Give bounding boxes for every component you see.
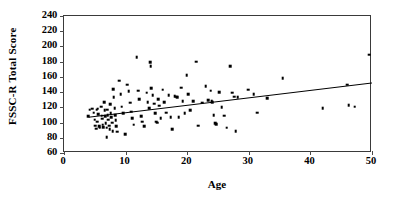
y-axis-tick-label: 180 <box>23 55 57 66</box>
data-point <box>101 117 104 120</box>
data-point <box>103 101 106 104</box>
data-point <box>252 93 255 96</box>
data-point <box>95 127 98 130</box>
y-axis-tick <box>60 16 64 17</box>
data-point <box>143 125 146 128</box>
y-axis-tick-label: 80 <box>23 132 57 143</box>
data-point <box>204 85 207 88</box>
y-axis-tick-label: 140 <box>23 86 57 97</box>
data-point <box>129 101 132 104</box>
data-point <box>201 101 204 104</box>
y-axis-tick-label: 220 <box>23 25 57 36</box>
data-points-layer <box>64 16 370 151</box>
data-point <box>321 107 324 110</box>
data-point <box>106 108 109 111</box>
data-point <box>281 77 284 80</box>
data-point <box>368 54 371 57</box>
x-axis-tick-label: 0 <box>48 156 78 167</box>
data-point <box>145 92 148 95</box>
data-point <box>211 101 214 104</box>
data-point <box>105 136 108 139</box>
data-point <box>207 99 210 102</box>
y-axis-tick <box>60 31 64 32</box>
data-point <box>131 117 134 120</box>
data-point <box>176 96 179 99</box>
data-point <box>346 83 349 86</box>
data-point <box>266 97 269 100</box>
data-point <box>153 102 156 105</box>
data-point <box>126 83 129 86</box>
data-point <box>215 123 218 126</box>
data-point <box>138 98 141 101</box>
data-point <box>235 130 238 133</box>
y-axis-tick <box>60 107 64 108</box>
data-point <box>197 124 200 127</box>
data-point <box>110 112 113 115</box>
x-axis-tick-label: 10 <box>110 156 140 167</box>
data-point <box>247 89 250 92</box>
data-point <box>187 93 190 96</box>
y-axis-tick-label: 240 <box>23 10 57 21</box>
data-point <box>91 108 94 111</box>
data-point <box>151 94 154 97</box>
data-point <box>231 92 234 95</box>
data-point <box>111 130 114 133</box>
y-axis-tick <box>60 92 64 93</box>
data-point <box>98 127 101 130</box>
y-axis-tick <box>60 138 64 139</box>
data-point <box>223 114 226 117</box>
x-axis-tick-label: 20 <box>171 156 201 167</box>
data-point <box>146 101 149 104</box>
y-axis-tick <box>60 46 64 47</box>
data-point <box>229 65 232 68</box>
data-point <box>130 111 133 114</box>
data-point <box>158 105 161 108</box>
data-point <box>236 96 239 99</box>
data-point <box>220 106 223 109</box>
data-point <box>119 93 122 96</box>
data-point <box>111 121 114 124</box>
data-point <box>154 112 157 115</box>
data-point <box>114 114 117 117</box>
y-axis-tick <box>60 62 64 63</box>
data-point <box>165 111 168 114</box>
x-axis-tick-label: 30 <box>233 156 263 167</box>
data-point <box>192 100 195 103</box>
x-axis-title: Age <box>63 178 371 190</box>
data-point <box>183 112 186 115</box>
data-point <box>115 125 118 128</box>
data-point <box>140 115 143 118</box>
data-point <box>180 86 183 89</box>
data-point <box>225 127 228 130</box>
data-point <box>107 118 110 121</box>
data-point <box>112 88 115 91</box>
data-point <box>135 56 138 59</box>
data-point <box>150 87 153 90</box>
data-point <box>113 107 116 110</box>
data-point <box>182 100 185 103</box>
data-point <box>124 133 127 136</box>
data-point <box>156 121 159 124</box>
y-axis-tick <box>60 123 64 124</box>
y-axis-tick-label: 160 <box>23 71 57 82</box>
data-point <box>218 91 221 94</box>
data-point <box>116 130 119 133</box>
data-point <box>137 89 140 92</box>
scatter-chart: FSSC-R Total Score Age 60801001201401601… <box>0 0 394 204</box>
data-point <box>209 89 212 92</box>
y-axis-tick-label: 100 <box>23 116 57 127</box>
data-point <box>122 112 125 115</box>
data-point <box>163 101 166 104</box>
y-axis-tick-label: 120 <box>23 101 57 112</box>
x-axis-tick-label: 50 <box>356 156 386 167</box>
data-point <box>110 116 113 119</box>
data-point <box>96 120 99 123</box>
data-point <box>100 105 103 108</box>
plot-area <box>63 15 371 152</box>
x-axis-tick-label: 40 <box>294 156 324 167</box>
y-axis-tick <box>60 77 64 78</box>
data-point <box>256 111 259 114</box>
data-point <box>114 119 117 122</box>
data-point <box>159 117 162 120</box>
data-point <box>108 124 111 127</box>
